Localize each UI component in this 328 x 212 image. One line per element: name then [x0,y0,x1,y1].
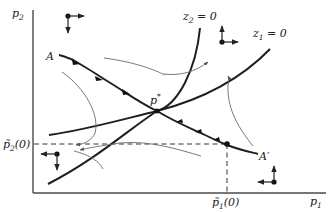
thin-trajectories [62,58,253,169]
equilibrium-point [155,109,160,114]
y-axis-label: p2 [12,7,24,22]
path-start-label: A [45,50,54,63]
z1-label: z1 = 0 [252,27,287,42]
saddle-path [59,55,258,154]
initial-point [224,141,230,147]
x-axis-label: p1 [310,195,322,210]
direction-marker-top-left [65,13,84,33]
equilibrium-label: p* [150,92,161,107]
direction-marker-bottom-right [258,166,277,185]
direction-marker-top-right [219,26,238,45]
phase-diagram: p2 p1 p̃2(0) p̃1(0) z2 = 0 z1 = 0 A A′ p… [0,0,328,212]
p1-initial-label: p̃1(0) [212,196,239,211]
path-end-label: A′ [258,150,270,163]
direction-marker-bottom-left [41,151,60,170]
p2-initial-label: p̃2(0) [3,138,30,153]
z2-label: z2 = 0 [182,10,217,25]
